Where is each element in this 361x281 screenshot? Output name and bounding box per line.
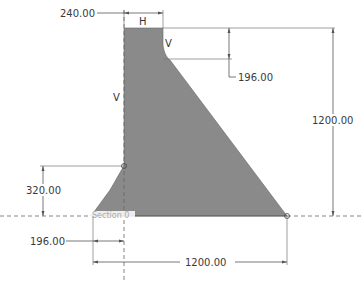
dimension-top-width[interactable]: 240.00	[60, 8, 95, 19]
arrow-icon	[42, 166, 45, 171]
arrow-icon	[282, 261, 287, 264]
arrow-icon	[228, 28, 231, 33]
arrow-icon	[158, 12, 163, 15]
vertical-constraint-icon[interactable]: V	[113, 92, 120, 103]
arrow-icon	[228, 54, 231, 59]
dimension-foot-height[interactable]: 320.00	[26, 185, 61, 196]
arrow-icon	[124, 12, 129, 15]
horizontal-constraint-icon[interactable]: H	[139, 16, 147, 27]
dimension-total-height[interactable]: 1200.00	[312, 115, 353, 126]
arrow-icon	[93, 261, 98, 264]
arrow-icon	[332, 28, 335, 33]
dam-profile-section[interactable]	[91, 28, 287, 216]
arrow-icon	[332, 211, 335, 216]
dimension-top-offset[interactable]: 196.00	[238, 72, 273, 83]
arrow-icon	[42, 211, 45, 216]
dimension-foot-width[interactable]: 196.00	[30, 236, 65, 247]
arrow-icon	[93, 240, 98, 243]
section-label: Section 0	[92, 211, 129, 220]
arrow-icon	[119, 240, 124, 243]
vertical-constraint-icon[interactable]: V	[165, 38, 172, 49]
sketch-canvas[interactable]: 240.00 H V V 196.00 1200.00 320.00 Secti…	[0, 0, 361, 281]
dimension-base-width[interactable]: 1200.00	[185, 257, 226, 268]
